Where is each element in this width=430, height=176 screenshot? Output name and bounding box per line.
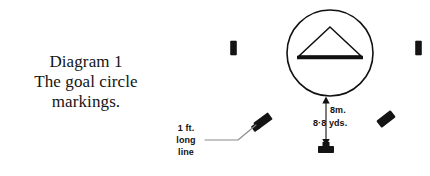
goal-triangle-icon (299, 27, 361, 56)
caption-line-title: Diagram 1 (6, 52, 166, 72)
distance-metric-label: 8m. (330, 104, 346, 116)
diagram-figure: Diagram 1 The goal circle markings. 1 ft… (0, 0, 430, 176)
caption-line-second: The goal circle (6, 72, 166, 92)
caption-line-third: markings. (6, 92, 166, 112)
long-line-label-line-2: long (168, 134, 204, 146)
dimension-arrow-head-up-icon (322, 97, 329, 104)
figure-caption: Diagram 1 The goal circle markings. (6, 52, 166, 112)
long-line-label-line-1: 1 ft. (168, 122, 204, 134)
goal-circle-icon (287, 10, 373, 96)
distance-imperial-label: 8·8 yds. (313, 117, 347, 129)
left-post-marker-icon (231, 41, 237, 55)
long-line-label-line-3: line (168, 146, 204, 158)
leader-line-icon (205, 125, 256, 140)
right-diagonal-marker-icon (376, 110, 396, 128)
right-post-marker-icon (416, 41, 422, 55)
long-line-label: 1 ft. long line (168, 122, 204, 158)
penalty-spot-marker-stem-icon (323, 142, 330, 147)
penalty-spot-marker-icon (318, 146, 334, 153)
